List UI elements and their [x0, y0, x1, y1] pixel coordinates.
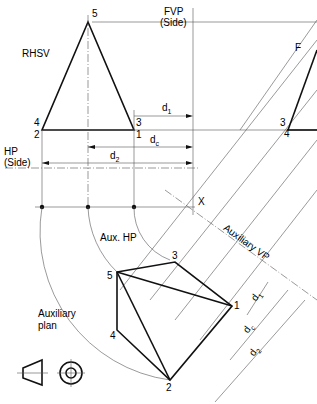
point-3-aux: 3: [172, 250, 178, 261]
point-2-top: 2: [34, 129, 40, 140]
auxiliary-vp-label: Auxiliary VP: [222, 222, 272, 263]
point-1-top: 1: [136, 129, 142, 140]
dim-d1: d1: [162, 102, 171, 115]
hp-label: HP: [4, 146, 18, 157]
point-4-top: 4: [34, 117, 40, 128]
point-4-aux: 4: [110, 330, 116, 341]
aux-plan-label: Auxiliary: [38, 308, 76, 319]
dim-dc: dc: [150, 134, 159, 147]
point-3-top: 3: [136, 117, 142, 128]
dim-d2: d2: [110, 150, 119, 163]
rhsv-label: RHSV: [22, 48, 50, 59]
fvp-label: FVP: [164, 6, 183, 17]
f-label: F: [295, 42, 301, 53]
dim-dc-aux: dc: [241, 321, 257, 336]
point-3-front: 3: [280, 117, 286, 128]
point-5-top: 5: [92, 8, 98, 19]
dim-d1-aux: d1: [249, 289, 265, 304]
dim-d2-aux: d2: [247, 344, 263, 359]
point-5-aux: 5: [107, 270, 113, 281]
point-1-aux: 1: [234, 300, 240, 311]
x-label: X: [198, 196, 205, 207]
aux-plan-label-2: plan: [38, 320, 57, 331]
fvp-side-label: (Side): [160, 17, 187, 28]
point-2-aux: 2: [166, 382, 172, 393]
point-4-front: 4: [284, 128, 290, 139]
hp-side-label: (Side): [4, 157, 31, 168]
aux-hp-label: Aux. HP: [100, 232, 137, 243]
